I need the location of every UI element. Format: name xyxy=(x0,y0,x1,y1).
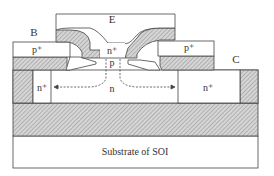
emitter-region-label: n⁺ xyxy=(107,45,117,56)
substrate-label: Substrate of SOI xyxy=(102,146,169,157)
buried-oxide-layer xyxy=(13,103,258,136)
emitter-label: E xyxy=(109,13,116,25)
left-isolation xyxy=(13,70,33,103)
drift-region-label: n xyxy=(110,83,115,94)
collector-left-label: n⁺ xyxy=(37,82,47,93)
base-contact-right-label: p⁺ xyxy=(184,42,194,53)
collector-right-label: n⁺ xyxy=(203,82,213,93)
right-isolation xyxy=(240,70,258,103)
left-spacer xyxy=(66,57,96,70)
soi-transistor-diagram: E B C p⁺ p⁺ n⁺ p n⁺ n n⁺ Substrate of SO… xyxy=(0,0,274,176)
collector-label: C xyxy=(232,53,239,65)
base-label: B xyxy=(30,26,37,38)
left-oxide xyxy=(13,57,70,70)
base-contact-left-label: p⁺ xyxy=(32,44,42,55)
right-oxide xyxy=(160,56,214,70)
right-spacer xyxy=(128,60,160,70)
intrinsic-base-label: p xyxy=(110,57,115,68)
